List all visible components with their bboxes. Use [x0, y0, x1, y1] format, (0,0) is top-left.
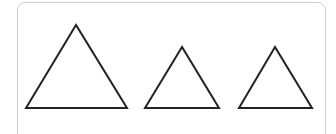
large-triangle	[26, 25, 127, 108]
medium-triangle	[145, 47, 219, 108]
small-triangle	[239, 47, 312, 108]
triangles-figure	[0, 0, 336, 134]
